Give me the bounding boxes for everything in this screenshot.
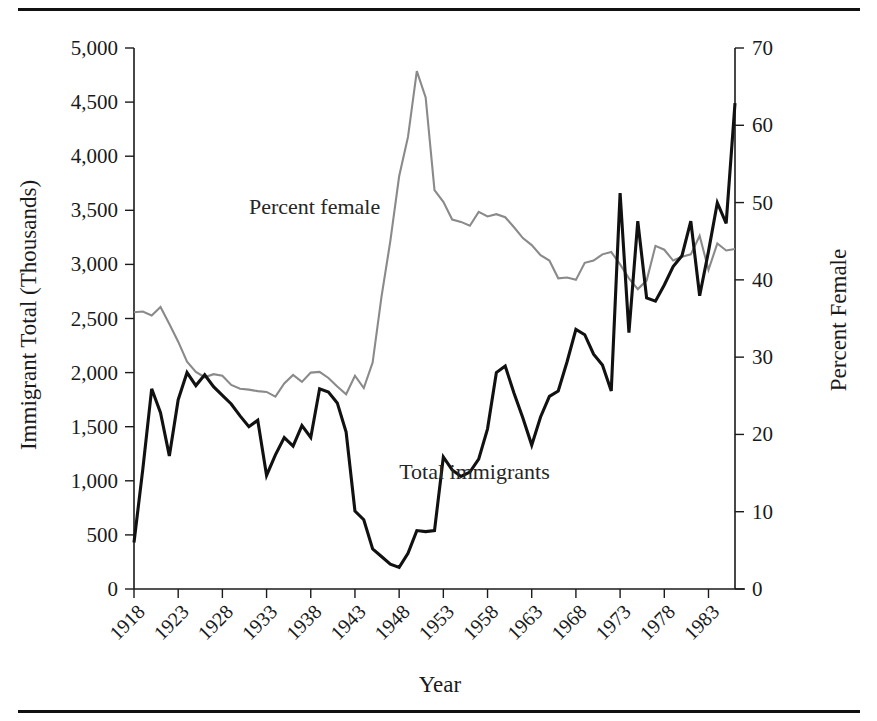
y-axis-left-tick-label: 5,000 (71, 36, 118, 60)
y-axis-right-tick-label: 20 (752, 422, 773, 446)
y-axis-right-tick-label: 60 (752, 113, 773, 137)
y-axis-left-tick-label: 0 (108, 577, 119, 601)
y-axis-left-title: Immigrant Total (Thousands) (16, 180, 41, 450)
x-axis-tick-label: 1928 (193, 600, 237, 644)
x-axis-tick-label: 1983 (679, 600, 723, 644)
total-immigrants-line (134, 103, 735, 567)
y-axis-right-tick-label: 10 (752, 500, 773, 524)
percent-female-series-label: Percent female (249, 194, 380, 219)
y-axis-right-tick-label: 50 (752, 191, 773, 215)
x-axis-tick-label: 1933 (238, 600, 282, 644)
y-axis-left-tick-label: 4,500 (71, 90, 118, 114)
y-axis-right-tick-label: 70 (752, 36, 773, 60)
x-axis-tick-label: 1973 (591, 600, 635, 644)
percent-female-line (134, 71, 735, 396)
y-axis-right-title: Percent Female (826, 249, 851, 391)
y-axis-right-tick-label: 40 (752, 268, 773, 292)
y-axis-left-ticks: 05001,0001,5002,0002,5003,0003,5004,0004… (71, 36, 134, 601)
x-axis-tick-label: 1938 (282, 600, 326, 644)
y-axis-left-tick-label: 1,500 (71, 415, 118, 439)
y-axis-left-tick-label: 1,000 (71, 469, 118, 493)
figure-container: 05001,0001,5002,0002,5003,0003,5004,0004… (0, 0, 877, 721)
y-axis-left-tick-label: 2,500 (71, 307, 118, 331)
y-axis-right-ticks: 010203040506070 (735, 36, 773, 601)
x-axis-tick-label: 1948 (370, 600, 414, 644)
x-axis-tick-label: 1978 (635, 600, 679, 644)
immigration-chart: 05001,0001,5002,0002,5003,0003,5004,0004… (0, 0, 877, 721)
y-axis-left-tick-label: 500 (87, 523, 119, 547)
x-axis-title: Year (419, 672, 462, 697)
x-axis-tick-label: 1958 (459, 600, 503, 644)
x-axis-tick-label: 1963 (503, 600, 547, 644)
y-axis-left-tick-label: 4,000 (71, 144, 118, 168)
x-axis-tick-label: 1943 (326, 600, 370, 644)
x-axis-tick-label: 1923 (149, 600, 193, 644)
x-axis-tick-label: 1968 (547, 600, 591, 644)
x-axis-tick-label: 1953 (414, 600, 458, 644)
y-axis-left-tick-label: 3,500 (71, 198, 118, 222)
x-axis-tick-label: 1918 (105, 600, 149, 644)
y-axis-right-tick-label: 30 (752, 345, 773, 369)
y-axis-right-tick-label: 0 (752, 577, 763, 601)
x-axis-ticks: 1918192319281933193819431948195319581963… (105, 589, 723, 644)
y-axis-left-tick-label: 2,000 (71, 361, 118, 385)
y-axis-left-tick-label: 3,000 (71, 252, 118, 276)
total-immigrants-series-label: Total immigrants (399, 459, 550, 484)
